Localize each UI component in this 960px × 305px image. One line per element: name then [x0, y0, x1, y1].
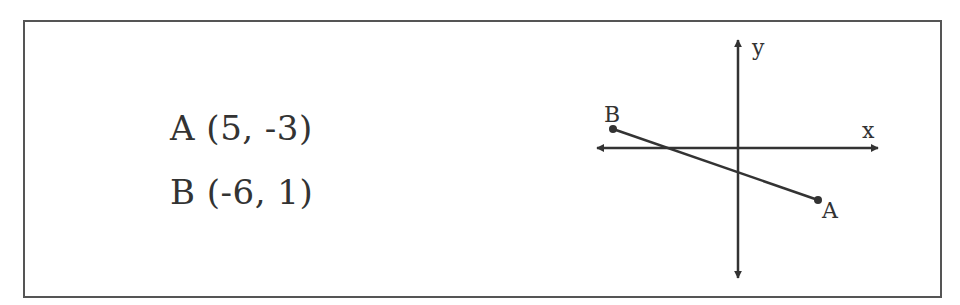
x-axis-label: x [862, 118, 875, 143]
segment-ab [613, 129, 818, 200]
point-a-label: A [821, 198, 839, 223]
point-a-dot [814, 196, 822, 204]
coordinate-graph: y x B A [0, 0, 960, 305]
y-axis-label: y [751, 35, 765, 60]
point-b-label: B [604, 102, 620, 127]
